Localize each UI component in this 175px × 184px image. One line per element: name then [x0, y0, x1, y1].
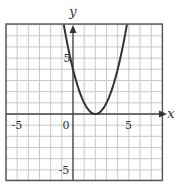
y-axis-label: y [68, 4, 77, 19]
y-axis-arrow-icon [70, 25, 77, 33]
x-tick-label-pos5: 5 [125, 119, 132, 132]
y-tick-label-pos5: 5 [64, 52, 71, 65]
y-tick-label-neg5: -5 [59, 164, 70, 177]
x-tick-label-neg5: -5 [12, 119, 23, 132]
coordinate-plane: x y -5 0 5 5 -5 [0, 0, 175, 184]
x-axis-label: x [167, 106, 175, 121]
x-tick-label-zero: 0 [63, 119, 70, 132]
